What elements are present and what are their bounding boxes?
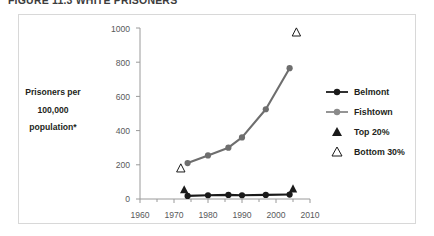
endpoint-marker-layer — [177, 28, 301, 193]
legend-label-fishtown: Fishtown — [354, 107, 393, 117]
x-axis-ticks — [140, 199, 310, 203]
legend-marker-bottom-30 — [324, 142, 354, 162]
legend-item-belmont[interactable]: Belmont — [324, 82, 416, 102]
data-series-layer — [185, 65, 293, 199]
chart-figure: FIGURE 11.3 WHITE PRISONERS Prisoners pe… — [0, 0, 434, 236]
legend-label-bottom-30: Bottom 30% — [354, 147, 405, 157]
legend-label-belmont: Belmont — [354, 87, 389, 97]
y-axis-ticks — [136, 28, 140, 199]
legend-marker-fishtown — [324, 102, 354, 122]
legend-item-bottom-30[interactable]: Bottom 30% — [324, 142, 416, 162]
legend-marker-top-20 — [324, 122, 354, 142]
legend-item-top-20[interactable]: Top 20% — [324, 122, 416, 142]
chart-legend: Belmont Fishtown Top 20% — [324, 82, 416, 162]
legend-marker-belmont — [324, 82, 354, 102]
legend-item-fishtown[interactable]: Fishtown — [324, 102, 416, 122]
legend-label-top-20: Top 20% — [354, 127, 390, 137]
